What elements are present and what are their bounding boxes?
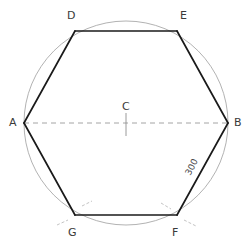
vertex-label-g: G bbox=[68, 227, 77, 238]
hexagon-edge-e-b bbox=[177, 31, 228, 123]
hexagon-edge-g-a bbox=[24, 123, 75, 215]
geometry-figure bbox=[0, 0, 252, 250]
vertex-label-e: E bbox=[180, 10, 187, 21]
hexagon-edge-a-d bbox=[24, 31, 75, 123]
drawing-canvas: A D E B F G C 300 bbox=[0, 0, 252, 250]
vertex-label-a: A bbox=[9, 117, 17, 128]
arc-mark-f-lower bbox=[184, 220, 196, 226]
vertex-label-d: D bbox=[67, 10, 75, 21]
arc-mark-f-upper bbox=[161, 203, 171, 209]
center-label-c: C bbox=[122, 101, 130, 112]
arc-mark-g-upper bbox=[82, 201, 92, 206]
vertex-label-f: F bbox=[172, 227, 178, 238]
arc-mark-g-lower bbox=[57, 220, 68, 225]
vertex-label-b: B bbox=[234, 117, 242, 128]
